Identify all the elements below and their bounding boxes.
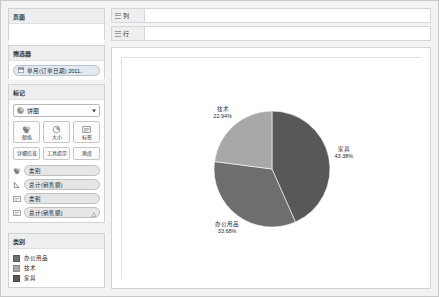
color-legend-body: 办公用品 技术 家具: [9, 249, 104, 287]
marks-shelf-row: 总计(销售额): [13, 179, 100, 190]
label-icon: [13, 208, 21, 217]
marks-pill-category-label[interactable]: 类别: [24, 193, 100, 204]
marks-shelf-row: 类别: [13, 165, 100, 176]
mark-button-color[interactable]: 颜色: [13, 121, 40, 143]
grid-icon: [115, 31, 121, 37]
columns-shelf: 列: [111, 8, 431, 23]
marks-pill-sales-label[interactable]: 总计(销售额) △: [24, 207, 100, 218]
color-icon: [22, 125, 31, 134]
mark-button-tooltip[interactable]: 工具提示: [43, 147, 70, 160]
legend-item-technology[interactable]: 技术: [13, 263, 100, 273]
warning-icon[interactable]: △: [91, 209, 96, 216]
color-icon: [13, 166, 21, 175]
mark-button-size-label: 大小: [52, 135, 62, 140]
marks-card: 标记 饼图 颜色: [8, 84, 105, 223]
mark-button-color-label: 颜色: [22, 135, 32, 140]
color-legend-card: 类别 办公用品 技术 家具: [8, 233, 105, 288]
filter-pill-label: 单月(订单日期) 2011..: [27, 67, 83, 75]
pie-slice-label-pct: 22.94%: [213, 113, 232, 120]
marks-card-body: 饼图 颜色 大小: [9, 100, 104, 222]
mark-button-size[interactable]: 大小: [43, 121, 70, 143]
pages-card: 页面: [8, 8, 105, 40]
pie-slice-label-pct: 43.38%: [335, 153, 354, 160]
label-icon: [13, 194, 21, 203]
pie-slice-label-name: 技术: [217, 106, 229, 112]
pie-slice-label-technology: 技术 22.94%: [213, 106, 232, 120]
pie-slice-label-name: 办公用品: [215, 221, 239, 227]
marks-pill-label: 类别: [29, 195, 41, 203]
legend-item-office[interactable]: 办公用品: [13, 253, 100, 263]
mark-button-detail[interactable]: 详细信息: [13, 147, 40, 160]
pie-slice-label-pct: 33.68%: [215, 228, 239, 235]
left-sidebar: 页面 筛选器 单月(订单日期) 2011.. 标记: [8, 8, 105, 291]
label-icon: [82, 125, 91, 134]
legend-swatch: [13, 275, 20, 282]
pie-chart[interactable]: 家具 43.38% 办公用品 33.68% 技术 22.94%: [122, 58, 421, 279]
viz-inner-panel: 家具 43.38% 办公用品 33.68% 技术 22.94%: [121, 57, 421, 279]
mark-type-value: 饼图: [27, 106, 39, 115]
size-icon: [52, 125, 61, 134]
rows-shelf: 行: [111, 26, 431, 41]
pie-slice-label-office: 办公用品 33.68%: [215, 221, 239, 235]
grid-icon: [115, 13, 121, 19]
pie-icon: [17, 107, 24, 114]
chevron-down-icon[interactable]: [92, 109, 96, 112]
marks-pill-label: 类别: [29, 167, 41, 175]
mark-buttons-secondary: 详细信息 工具提示 角度: [13, 147, 100, 160]
marks-pill-label: 总计(销售额): [29, 181, 63, 189]
marks-shelf-row: 类别: [13, 193, 100, 204]
mark-button-tooltip-label: 工具提示: [47, 151, 67, 156]
marks-pill-sales-angle[interactable]: 总计(销售额): [24, 179, 100, 190]
legend-item-label: 技术: [24, 264, 36, 272]
mark-button-label-label: 标签: [82, 135, 92, 140]
mark-button-label[interactable]: 标签: [73, 121, 100, 143]
pages-card-title: 页面: [9, 9, 104, 24]
marks-shelf-row: 总计(销售额) △: [13, 207, 100, 218]
columns-shelf-text: 列: [123, 11, 129, 20]
mark-button-angle-label: 角度: [82, 151, 92, 156]
columns-shelf-dropzone[interactable]: [145, 8, 431, 23]
angle-icon: [13, 180, 21, 189]
marks-shelf-pill-list: 类别 总计(销售额): [13, 165, 100, 218]
pie-wrap: 家具 43.38% 办公用品 33.68% 技术 22.94%: [197, 94, 347, 244]
rows-shelf-label: 行: [111, 26, 145, 41]
mark-type-select[interactable]: 饼图: [13, 104, 100, 117]
mark-buttons-primary: 颜色 大小 标签: [13, 121, 100, 143]
visualization-canvas[interactable]: 家具 43.38% 办公用品 33.68% 技术 22.94%: [111, 47, 431, 289]
marks-pill-label: 总计(销售额): [29, 209, 63, 217]
pie-slice-label-name: 家具: [338, 146, 350, 152]
pie-slice-label-furniture: 家具 43.38%: [335, 146, 354, 160]
filters-card: 筛选器 单月(订单日期) 2011..: [8, 45, 105, 79]
legend-swatch: [13, 255, 20, 262]
legend-item-label: 家具: [24, 274, 36, 282]
legend-item-label: 办公用品: [24, 254, 48, 262]
rows-shelf-dropzone[interactable]: [145, 26, 431, 41]
mark-button-angle[interactable]: 角度: [73, 147, 100, 160]
legend-swatch: [13, 265, 20, 272]
tableau-window: 页面 筛选器 单月(订单日期) 2011.. 标记: [0, 0, 439, 297]
calendar-icon: [18, 67, 24, 74]
marks-card-title: 标记: [9, 85, 104, 100]
shelf-area: 列 行: [111, 8, 431, 42]
marks-pill-category-color[interactable]: 类别: [24, 165, 100, 176]
rows-shelf-text: 行: [123, 29, 129, 38]
filters-card-title: 筛选器: [9, 46, 104, 61]
filter-pill-order-date[interactable]: 单月(订单日期) 2011..: [13, 65, 100, 76]
columns-shelf-label: 列: [111, 8, 145, 23]
legend-item-furniture[interactable]: 家具: [13, 273, 100, 283]
color-legend-title: 类别: [9, 234, 104, 249]
mark-button-detail-label: 详细信息: [17, 151, 37, 156]
filters-drop-zone[interactable]: 单月(订单日期) 2011..: [9, 61, 104, 80]
